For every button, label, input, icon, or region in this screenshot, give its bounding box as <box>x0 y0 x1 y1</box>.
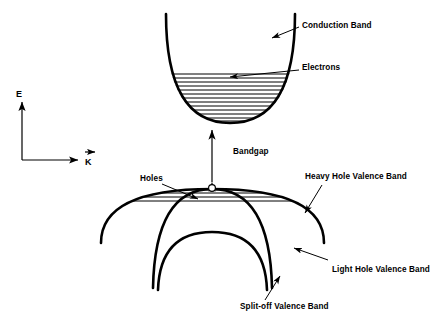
split-off-valence-band-label: Split-off Valence Band <box>240 303 329 311</box>
hole-marker-icon <box>209 185 216 192</box>
valence-bands-group <box>101 185 324 290</box>
heavy-hole-leader-arrow <box>305 185 322 213</box>
conduction-band-group <box>150 14 312 123</box>
energy-axis-label: E <box>16 90 22 99</box>
band-structure-diagram: Conduction Band Electrons Bandgap Holes … <box>0 0 438 324</box>
light-hole-valence-band-label: Light Hole Valence Band <box>332 266 430 274</box>
holes-label: Holes <box>140 175 163 183</box>
light-hole-leader-arrow <box>294 248 328 260</box>
conduction-band-label: Conduction Band <box>302 22 372 30</box>
light-hole-valence-band-curve <box>153 189 272 288</box>
conduction-band-curve <box>166 14 295 123</box>
electrons-label: Electrons <box>302 64 340 72</box>
heavy-hole-valence-band-label: Heavy Hole Valence Band <box>305 173 407 181</box>
bandgap-label: Bandgap <box>233 148 269 156</box>
split-off-valence-band-curve <box>158 232 267 290</box>
axis-group <box>22 102 95 160</box>
momentum-axis-label: K <box>85 158 92 167</box>
band-diagram-canvas <box>0 0 438 324</box>
